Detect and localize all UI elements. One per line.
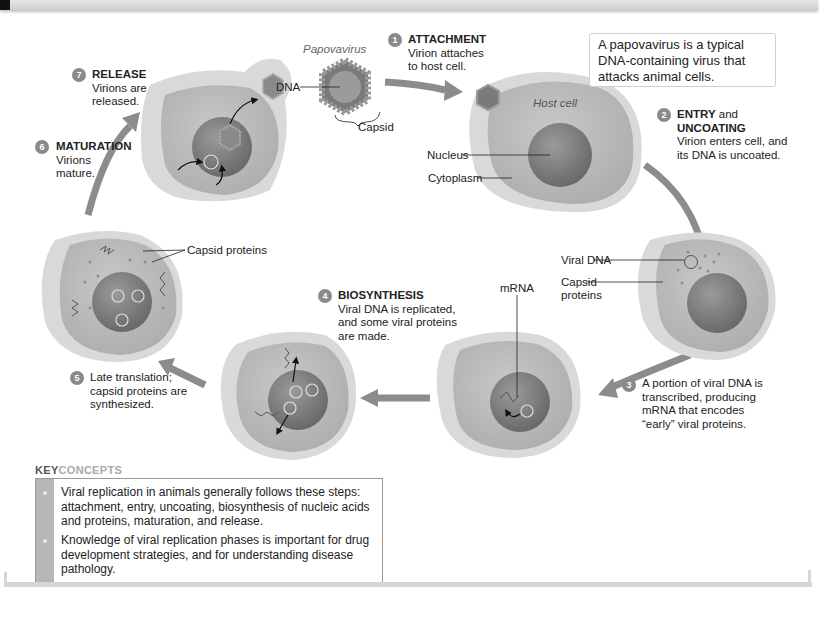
step-2-title2: UNCOATING [677, 122, 787, 136]
step-6-maturation: MATURATION Virions mature. [56, 140, 132, 181]
step-5-line: Late translation; [90, 371, 187, 385]
step-4-line: and some viral proteins [338, 316, 457, 330]
key-concepts-heading: KEYCONCEPTS [35, 464, 122, 476]
host-cell [469, 72, 641, 212]
step-6-line: Virions [56, 154, 132, 168]
cell-release [141, 59, 291, 201]
key-concept-line: Knowledge of viral replication phases is… [61, 533, 381, 548]
step-7-badge: 7 [72, 68, 86, 82]
step-5-line: synthesized. [90, 398, 187, 412]
key-concept-item: Viral replication in animals generally f… [61, 485, 381, 529]
step-1-badge: 1 [388, 33, 402, 47]
papovavirus-particle [322, 60, 368, 113]
key-concept-line: attachment, entry, uncoating, biosynthes… [61, 500, 381, 515]
step-1-title: ATTACHMENT [408, 33, 486, 47]
step-7-title: RELEASE [92, 68, 147, 82]
dna-label: DNA [276, 81, 300, 94]
key-concept-line: pathology. [61, 562, 381, 577]
bottom-rule [4, 582, 812, 587]
step-6-badge: 6 [35, 140, 49, 154]
capsid-proteins-line: proteins [561, 289, 602, 302]
cell-transcription [437, 332, 581, 458]
mrna-label: mRNA [500, 282, 534, 295]
cytoplasm-label: Cytoplasm [428, 172, 482, 185]
step-3-transcription: A portion of viral DNA is transcribed, p… [642, 377, 763, 431]
step-7-line: Virions are [92, 82, 147, 96]
step-2-line: Virion enters cell, and [677, 135, 787, 149]
host-cell-label: Host cell [533, 97, 577, 110]
step-4-biosynthesis: BIOSYNTHESIS Viral DNA is replicated, an… [338, 289, 457, 343]
arrow-attach [385, 82, 445, 90]
step-2-badge: 2 [657, 108, 671, 122]
step-2-title-suffix: and [716, 108, 738, 120]
papovavirus-label: Papovavirus [303, 43, 366, 56]
step-3-line: “early” viral proteins. [642, 418, 763, 432]
key-concepts-box: Viral replication in animals generally f… [35, 478, 383, 582]
bullet-icon [43, 539, 47, 543]
viral-dna-label: Viral DNA [561, 254, 611, 267]
step-5-badge: 5 [70, 371, 84, 385]
step-5-late-translation: Late translation; capsid proteins are sy… [90, 371, 187, 412]
key-concept-line: and proteins, maturation, and release. [61, 514, 381, 529]
step-4-badge: 4 [318, 289, 332, 303]
step-2-title: ENTRY [677, 108, 716, 120]
step-3-badge: 3 [622, 378, 636, 392]
capsid-proteins-label: Capsid proteins [561, 276, 602, 302]
bullet-icon [43, 491, 47, 495]
step-6-title: MATURATION [56, 140, 132, 154]
capsid-proteins-late-label: Capsid proteins [187, 244, 267, 257]
step-2-entry-uncoating: ENTRY and UNCOATING Virion enters cell, … [677, 108, 787, 162]
cell-uncoated [638, 233, 776, 361]
step-2-line: its DNA is uncoated. [677, 149, 787, 163]
capsid-proteins-line: Capsid [561, 276, 602, 289]
step-7-line: released. [92, 95, 147, 109]
step-3-line: A portion of viral DNA is [642, 377, 763, 391]
step-7-release: RELEASE Virions are released. [92, 68, 147, 109]
step-4-line: are made. [338, 330, 457, 344]
key-concept-line: Viral replication in animals generally f… [61, 485, 381, 500]
key-concepts-heading-bold: KEY [35, 464, 59, 476]
cell-biosynthesis [221, 332, 356, 460]
step-1-attachment: ATTACHMENT Virion attaches to host cell. [408, 33, 486, 74]
step-6-line: mature. [56, 167, 132, 181]
papovavirus-callout: A papovavirus is a typical DNA-containin… [589, 33, 776, 87]
nucleus-label: Nucleus [427, 149, 469, 162]
step-3-line: mRNA that encodes [642, 404, 763, 418]
step-5-line: capsid proteins are [90, 385, 187, 399]
step-3-line: transcribed, producing [642, 391, 763, 405]
key-concepts-heading-light: CONCEPTS [59, 464, 123, 476]
step-4-line: Viral DNA is replicated, [338, 303, 457, 317]
capsid-label: Capsid [358, 121, 394, 134]
step-1-line: Virion attaches [408, 47, 486, 61]
key-concept-line: development strategies, and for understa… [61, 548, 381, 563]
frame-right-edge [808, 570, 811, 586]
step-1-line: to host cell. [408, 60, 486, 74]
step-4-title: BIOSYNTHESIS [338, 289, 457, 303]
key-concept-item: Knowledge of viral replication phases is… [61, 533, 381, 577]
